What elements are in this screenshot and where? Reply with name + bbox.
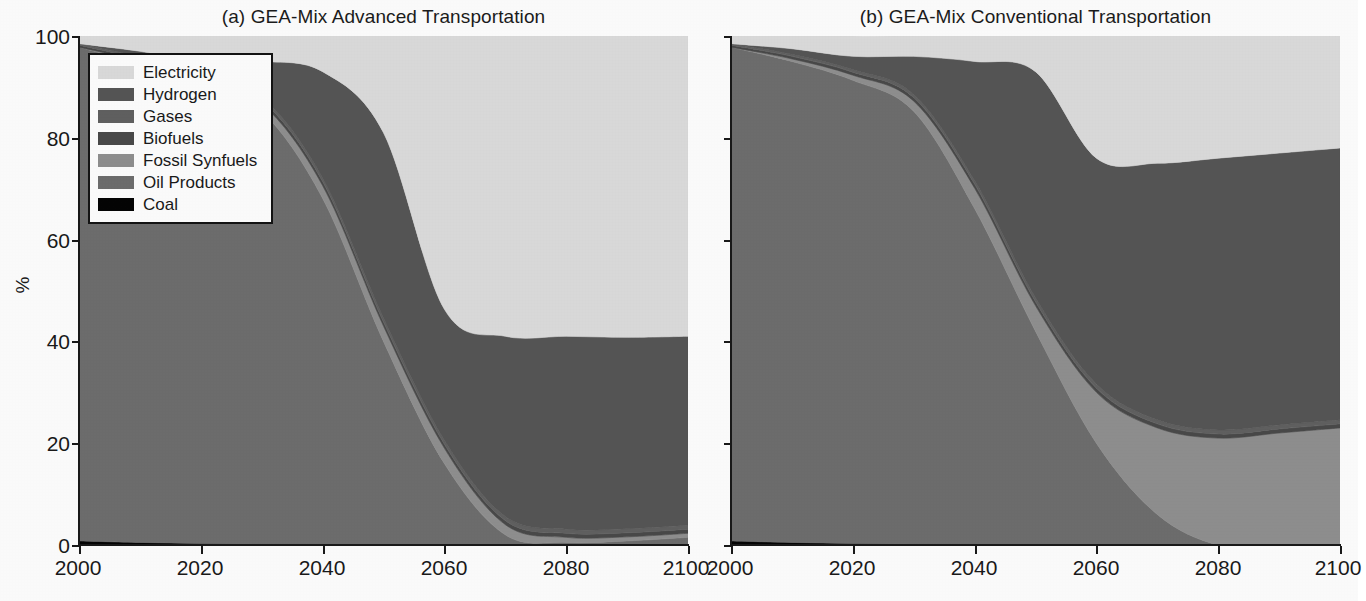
y-tick-label-20: 20: [10, 432, 70, 456]
panel-a-x-tick-label-2060: 2060: [399, 556, 489, 580]
legend-label-fossil-synfuels: Fossil Synfuels: [143, 152, 257, 169]
panel-b-x-tick-label-2000: 2000: [685, 556, 775, 580]
y-tick-label-100: 100: [10, 25, 70, 49]
legend-swatch-oil-products: [98, 176, 134, 189]
y-tick: [72, 545, 79, 547]
legend-item-hydrogen: Hydrogen: [98, 83, 263, 105]
legend-label-gases: Gases: [143, 108, 192, 125]
panel-b-x-tick-label-2080: 2080: [1173, 556, 1263, 580]
x-tick: [79, 546, 81, 554]
y-tick-label-0: 0: [10, 534, 70, 558]
panel-b-stacked-area-svg: [731, 36, 1340, 545]
legend-swatch-hydrogen: [98, 88, 134, 101]
panel-b-y-axis-line: [730, 36, 732, 546]
panel-a-x-axis-line: [78, 544, 689, 546]
x-tick: [1340, 546, 1342, 554]
panel-a-x-tick-label-2040: 2040: [277, 556, 367, 580]
panel-b-x-tick-label-2100: 2100: [1293, 556, 1366, 580]
panel-b-x-tick-label-2020: 2020: [807, 556, 897, 580]
legend-item-coal: Coal: [98, 193, 263, 215]
panel-b-x-axis-line: [730, 544, 1341, 546]
legend-label-coal: Coal: [143, 196, 178, 213]
x-tick: [566, 546, 568, 554]
x-tick: [201, 546, 203, 554]
y-axis-label: %: [12, 255, 34, 315]
y-tick: [724, 138, 731, 140]
x-tick: [688, 546, 690, 554]
x-tick: [323, 546, 325, 554]
legend-swatch-electricity: [98, 66, 134, 79]
legend-swatch-fossil-synfuels: [98, 154, 134, 167]
x-tick: [1218, 546, 1220, 554]
legend: Electricity Hydrogen Gases Biofuels Foss…: [88, 53, 273, 224]
y-tick: [72, 341, 79, 343]
y-tick-label-80: 80: [10, 127, 70, 151]
legend-item-biofuels: Biofuels: [98, 127, 263, 149]
legend-label-hydrogen: Hydrogen: [143, 86, 217, 103]
y-tick: [724, 341, 731, 343]
panel-b-areas: [731, 36, 1340, 545]
legend-label-biofuels: Biofuels: [143, 130, 203, 147]
panel-a-x-tick-label-2080: 2080: [521, 556, 611, 580]
panel-a-title: (a) GEA-Mix Advanced Transportation: [79, 6, 688, 28]
x-tick: [975, 546, 977, 554]
panel-a-x-tick-label-2000: 2000: [33, 556, 123, 580]
panel-b-title: (b) GEA-Mix Conventional Transportation: [731, 6, 1340, 28]
y-tick: [724, 240, 731, 242]
panel-b-plot-area: [731, 36, 1340, 545]
y-tick: [724, 36, 731, 38]
legend-swatch-coal: [98, 198, 134, 211]
panel-a-x-tick-label-2020: 2020: [155, 556, 245, 580]
y-tick: [724, 443, 731, 445]
y-tick-label-60: 60: [10, 229, 70, 253]
y-tick: [72, 138, 79, 140]
legend-item-oil-products: Oil Products: [98, 171, 263, 193]
x-tick: [853, 546, 855, 554]
x-tick: [444, 546, 446, 554]
y-tick: [724, 545, 731, 547]
y-tick: [72, 443, 79, 445]
legend-swatch-gases: [98, 110, 134, 123]
y-tick: [72, 36, 79, 38]
panel-b-x-tick-label-2040: 2040: [929, 556, 1019, 580]
y-tick-label-40: 40: [10, 330, 70, 354]
x-tick: [1096, 546, 1098, 554]
legend-swatch-biofuels: [98, 132, 134, 145]
legend-item-gases: Gases: [98, 105, 263, 127]
panel-b-x-tick-label-2060: 2060: [1051, 556, 1141, 580]
legend-label-oil-products: Oil Products: [143, 174, 236, 191]
legend-item-fossil-synfuels: Fossil Synfuels: [98, 149, 263, 171]
y-tick: [72, 240, 79, 242]
panel-a-y-axis-line: [78, 36, 80, 546]
legend-label-electricity: Electricity: [143, 64, 216, 81]
x-tick: [731, 546, 733, 554]
legend-item-electricity: Electricity: [98, 61, 263, 83]
